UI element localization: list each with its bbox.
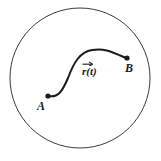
vector-symbol-wrapper: r [82,66,86,77]
vector-argument-text: (t) [86,65,96,77]
vector-symbol-text: r [82,65,86,77]
vector-arrow-icon [82,61,93,66]
vector-function-figure: A B r (t) [0,0,161,161]
vector-function-label: r (t) [82,66,97,77]
figure-canvas [0,0,161,161]
start-point-dot [45,93,50,98]
end-point-label: B [125,62,133,74]
end-point-dot [124,55,129,60]
boundary-circle [10,8,150,148]
start-point-label: A [37,100,45,112]
